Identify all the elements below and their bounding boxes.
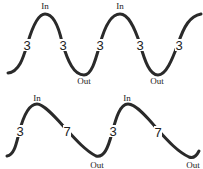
bottom-breath-wave <box>7 104 199 158</box>
bottom-count-exhale-1: 7 <box>63 124 70 139</box>
bottom-in-label-1: In <box>33 93 41 103</box>
bottom-count-inhale-1: 3 <box>16 124 23 139</box>
top-out-label-1: Out <box>77 76 91 86</box>
top-count-1: 3 <box>23 38 30 53</box>
top-in-label-1: In <box>41 1 49 11</box>
top-in-label-2: In <box>116 1 124 11</box>
bottom-out-label-2: Out <box>186 160 200 169</box>
top-breath-wave <box>8 14 201 75</box>
top-count-3: 3 <box>96 38 103 53</box>
bottom-in-label-2: In <box>123 93 131 103</box>
breathing-diagram: In In Out Out 3 3 3 3 3 In In Out Out 3 … <box>0 0 203 169</box>
top-count-4: 3 <box>136 38 143 53</box>
top-count-2: 3 <box>59 38 66 53</box>
bottom-count-exhale-2: 7 <box>154 125 161 140</box>
bottom-out-label-1: Out <box>90 160 104 169</box>
bottom-count-inhale-2: 3 <box>109 124 116 139</box>
top-count-5: 3 <box>175 38 182 53</box>
top-out-label-2: Out <box>150 76 164 86</box>
